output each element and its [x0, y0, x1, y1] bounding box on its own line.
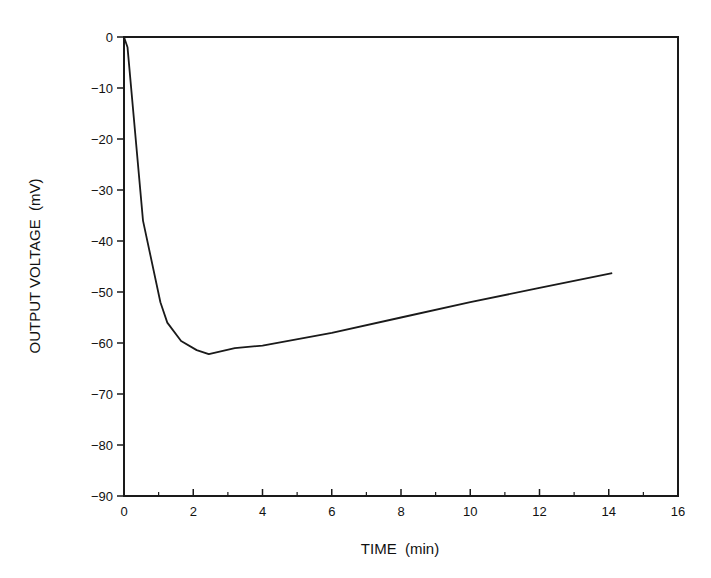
- x-axis-ticks: 0246810121416: [120, 489, 685, 519]
- x-tick-label: 2: [190, 504, 197, 519]
- x-tick-label: 12: [532, 504, 546, 519]
- x-tick-label: 0: [120, 504, 127, 519]
- x-tick-label: 6: [328, 504, 335, 519]
- x-axis-title: TIME (min): [361, 540, 439, 557]
- plot-border: [124, 37, 678, 496]
- x-tick-label: 4: [259, 504, 266, 519]
- x-tick-label: 8: [397, 504, 404, 519]
- y-tick-label: −70: [91, 387, 113, 402]
- plot-frame: [124, 37, 678, 496]
- y-tick-label: 0: [106, 30, 113, 45]
- y-tick-label: −80: [91, 438, 113, 453]
- y-tick-label: −10: [91, 81, 113, 96]
- y-axis-ticks: 0−10−20−30−40−50−60−70−80−90: [91, 30, 124, 504]
- line-chart: 0246810121416 0−10−20−30−40−50−60−70−80−…: [0, 0, 711, 578]
- x-tick-label: 14: [602, 504, 616, 519]
- y-tick-label: −30: [91, 183, 113, 198]
- y-tick-label: −40: [91, 234, 113, 249]
- y-tick-label: −50: [91, 285, 113, 300]
- y-tick-label: −90: [91, 489, 113, 504]
- y-tick-label: −60: [91, 336, 113, 351]
- y-axis-title: OUTPUT VOLTAGE (mV): [26, 178, 43, 353]
- x-tick-label: 10: [463, 504, 477, 519]
- x-tick-label: 16: [671, 504, 685, 519]
- y-tick-label: −20: [91, 132, 113, 147]
- series-line-output-voltage: [124, 37, 612, 354]
